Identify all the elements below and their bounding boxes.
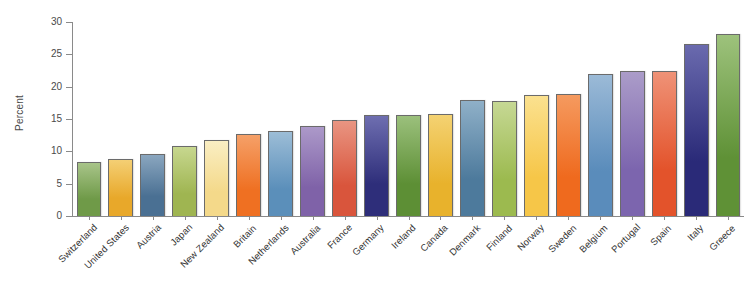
bar-spain[interactable] <box>652 71 677 216</box>
x-axis-label: Portugal <box>609 222 642 255</box>
y-axis-tick <box>66 151 73 152</box>
x-axis-tick <box>409 217 410 220</box>
x-axis-tick <box>632 217 633 220</box>
bar-france[interactable] <box>332 120 357 216</box>
x-axis-label: Italy <box>685 222 705 242</box>
x-axis-tick <box>568 217 569 220</box>
x-axis-tick <box>217 217 218 220</box>
x-axis-label: New Zealand <box>178 222 226 270</box>
bar-netherlands[interactable] <box>268 131 293 216</box>
x-axis-label: Norway <box>515 222 546 253</box>
y-axis-tick-label: 10 <box>40 146 62 156</box>
bar-australia[interactable] <box>300 126 325 216</box>
bar-germany[interactable] <box>364 115 389 216</box>
y-axis-tick <box>66 184 73 185</box>
x-axis-label: Austria <box>134 222 163 251</box>
x-axis-tick <box>281 217 282 220</box>
x-axis-tick <box>153 217 154 220</box>
bar-canada[interactable] <box>428 114 453 216</box>
y-axis-tick <box>66 119 73 120</box>
y-axis-tick <box>66 22 73 23</box>
bar-united-states[interactable] <box>108 159 133 216</box>
x-axis-tick <box>440 217 441 220</box>
y-axis-tick-label: 0 <box>40 211 62 221</box>
x-axis-tick <box>728 217 729 220</box>
x-axis-label: Switzerland <box>56 222 99 265</box>
y-axis-tick-label: 30 <box>40 17 62 27</box>
bar-norway[interactable] <box>524 95 549 216</box>
x-axis-tick <box>121 217 122 220</box>
x-axis-tick <box>504 217 505 220</box>
bar-italy[interactable] <box>684 44 709 216</box>
x-axis-label: Denmark <box>447 222 483 258</box>
bar-austria[interactable] <box>140 154 165 216</box>
y-axis-title: Percent <box>14 78 25 148</box>
bar-new-zealand[interactable] <box>204 140 229 216</box>
bar-britain[interactable] <box>236 134 261 216</box>
x-axis-label: Belgium <box>577 222 610 255</box>
x-axis-tick <box>313 217 314 220</box>
x-axis-label: Spain <box>648 222 673 247</box>
x-axis-label: France <box>325 222 354 251</box>
x-axis-label: Germany <box>350 222 386 258</box>
x-axis-label: Japan <box>168 222 194 248</box>
x-axis-tick <box>472 217 473 220</box>
y-axis-tick <box>66 87 73 88</box>
bar-switzerland[interactable] <box>77 162 102 216</box>
bar-finland[interactable] <box>492 101 517 216</box>
y-axis-tick-label: 5 <box>40 179 62 189</box>
x-axis-label: Sweden <box>546 222 578 254</box>
x-axis-line <box>72 216 744 217</box>
bar-sweden[interactable] <box>556 94 581 216</box>
bar-chart: Percent 051015202530 SwitzerlandUnited S… <box>0 0 754 295</box>
x-axis-tick <box>664 217 665 220</box>
x-axis-label: Finland <box>484 222 514 252</box>
x-axis-label: Ireland <box>389 222 418 251</box>
x-axis-tick <box>377 217 378 220</box>
x-axis-label: Greece <box>707 222 737 252</box>
y-axis-tick-label: 20 <box>40 82 62 92</box>
x-axis-label: Britain <box>231 222 258 249</box>
bar-portugal[interactable] <box>620 71 645 216</box>
x-axis-label: Australia <box>288 222 323 257</box>
x-axis-tick <box>89 217 90 220</box>
y-axis-tick-label: 25 <box>40 49 62 59</box>
bar-belgium[interactable] <box>588 74 613 216</box>
x-axis-tick <box>696 217 697 220</box>
y-axis-tick <box>66 54 73 55</box>
x-axis-tick <box>536 217 537 220</box>
bar-japan[interactable] <box>172 146 197 216</box>
x-axis-label: Canada <box>418 222 450 254</box>
x-axis-tick <box>345 217 346 220</box>
x-axis-label: Netherlands <box>246 222 291 267</box>
plot-area <box>73 22 744 216</box>
y-axis-tick <box>66 216 73 217</box>
x-axis-tick <box>185 217 186 220</box>
bar-greece[interactable] <box>716 34 741 216</box>
bar-denmark[interactable] <box>460 100 485 216</box>
x-axis-tick <box>249 217 250 220</box>
bar-ireland[interactable] <box>396 115 421 216</box>
x-axis-tick <box>600 217 601 220</box>
y-axis-tick-label: 15 <box>40 114 62 124</box>
x-axis-label: United States <box>82 222 131 271</box>
